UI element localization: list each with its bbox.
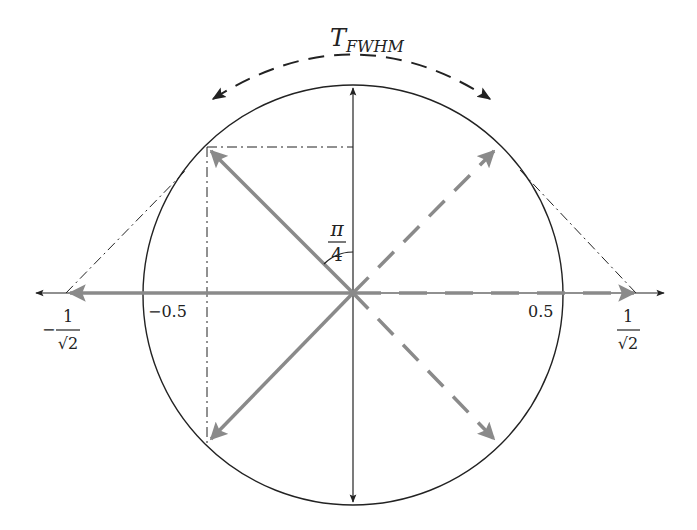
vector-225deg (211, 293, 353, 439)
fwhm-label: TFWHM (330, 24, 405, 56)
tick-pos-half: 0.5 (528, 302, 553, 321)
angle-label: π 4 (328, 217, 346, 265)
dashed-vectors (353, 151, 494, 439)
svg-text:1: 1 (63, 307, 73, 326)
vector-45deg (353, 151, 494, 293)
solid-vectors (70, 151, 353, 439)
tick-pos-inv-sqrt2: 1 √2 (617, 307, 640, 353)
svg-text:π: π (329, 217, 344, 241)
vector-315deg (353, 293, 494, 439)
tick-neg-half: −0.5 (148, 302, 187, 321)
svg-text:√2: √2 (58, 334, 78, 353)
fwhm-arc-arrow (213, 55, 490, 100)
svg-text:4: 4 (331, 244, 342, 265)
phasor-circle-diagram: TFWHM π 4 −0.5 0.5 − 1 √2 1 √2 (0, 0, 697, 530)
svg-text:−: − (42, 320, 55, 339)
tick-neg-inv-sqrt2: − 1 √2 (42, 307, 80, 353)
svg-text:1: 1 (623, 307, 633, 326)
svg-text:√2: √2 (618, 334, 638, 353)
